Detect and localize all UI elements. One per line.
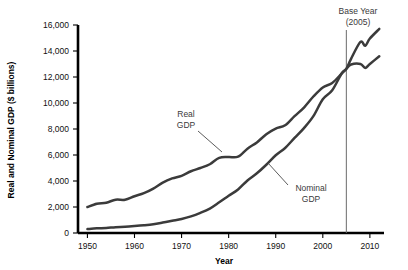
real-gdp-leader-line <box>198 131 222 152</box>
y-axis-title: Real and Nominal GDP ($ billions) <box>6 61 16 198</box>
x-tick-label: 2000 <box>313 241 332 251</box>
y-tick-label: 10,000 <box>43 98 69 108</box>
x-tick-label: 1970 <box>172 241 191 251</box>
real-gdp-annotation-line1: Real <box>177 109 195 119</box>
y-tick-label: 4,000 <box>48 176 70 186</box>
y-tick-label: 6,000 <box>48 150 70 160</box>
x-tick-label-group: 1950196019701980199020002010 <box>78 241 380 251</box>
y-tick-label: 8,000 <box>48 124 70 134</box>
x-axis-title: Year <box>215 256 234 266</box>
x-tick-label: 1950 <box>78 241 97 251</box>
y-tick-label: 16,000 <box>43 20 69 30</box>
y-tick-label: 12,000 <box>43 72 69 82</box>
x-tick-label: 1980 <box>219 241 238 251</box>
nominal-gdp-leader-line <box>268 163 288 185</box>
real-gdp-annotation-line2: GDP <box>177 120 196 130</box>
y-tick-label: 2,000 <box>48 202 70 212</box>
x-tick-label: 1990 <box>266 241 285 251</box>
nominal-gdp-annotation-line1: Nominal <box>295 183 326 193</box>
real-gdp-line <box>87 56 379 207</box>
y-tick-label: 0 <box>64 228 69 238</box>
x-tick-label: 2010 <box>360 241 379 251</box>
chart-canvas: Real and Nominal GDP ($ billions) Year 0… <box>0 0 408 270</box>
base-year-annotation-line2: (2005) <box>346 17 371 27</box>
y-tick-label: 14,000 <box>43 46 69 56</box>
y-tick-label-group: 02,0004,0006,0008,00010,00012,00014,0001… <box>43 20 69 238</box>
nominal-gdp-line <box>87 29 379 229</box>
nominal-gdp-annotation-line2: GDP <box>302 194 321 204</box>
base-year-annotation-line1: Base Year <box>339 6 378 16</box>
x-tick-label: 1960 <box>125 241 144 251</box>
gdp-chart-figure: Real and Nominal GDP ($ billions) Year 0… <box>0 0 408 270</box>
